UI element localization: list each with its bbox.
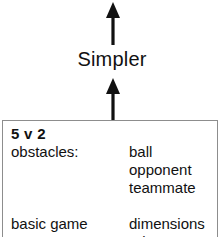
box-row: obstacles: ball: [3, 143, 217, 161]
box-row-clipped: rules: [3, 233, 217, 237]
box-cell-left: obstacles:: [11, 143, 79, 161]
box-cell-right: rules: [129, 233, 162, 237]
box-title-row: 5 v 2: [3, 125, 217, 143]
box-row: teammate: [3, 179, 217, 197]
simpler-hierarchy-diagram: Simpler 5 v 2 obstacles: ball opponent t…: [0, 0, 224, 237]
box-row-spacer: [3, 197, 217, 215]
box-cell-right: dimensions: [129, 215, 205, 233]
box-row: basic game dimensions: [3, 215, 217, 233]
box-cell-right: teammate: [129, 179, 196, 197]
box-cell-left: basic game: [11, 215, 88, 233]
box-row: opponent: [3, 161, 217, 179]
up-arrow-icon-bottom: [105, 77, 121, 121]
up-arrow-icon-top: [105, 1, 121, 45]
box-cell-right: opponent: [129, 161, 192, 179]
axis-label-simpler: Simpler: [0, 47, 224, 71]
box-cell-right: ball: [129, 143, 152, 161]
box-title: 5 v 2: [11, 125, 46, 143]
level-box: 5 v 2 obstacles: ball opponent teammate …: [2, 120, 218, 237]
